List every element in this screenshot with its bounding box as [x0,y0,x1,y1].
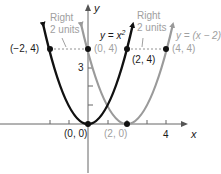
point-label-2-0: (2, 0) [104,129,127,139]
point-2-0 [124,121,130,127]
equation-base-text: y = x [100,30,121,41]
annotation-right-1-line2: 2 units [50,25,79,35]
point-label-0-4: (0, 4) [94,44,117,54]
point-4-4 [163,46,169,52]
y-tick-label-3: 3 [78,63,84,73]
point-label-4-4: (4, 4) [172,44,195,54]
equation-shifted: y = (x − 2)2 [176,28,221,41]
equation-base: y = x2 [100,28,125,41]
point-label-0-0: (0, 0) [64,129,87,139]
x-tick-label-4: 4 [163,130,169,140]
x-axis-label: x [191,129,197,139]
right-arrow-2 [142,38,143,47]
x-ticks [50,120,166,124]
equation-shifted-text: y = (x − 2) [176,30,221,41]
point-0-0 [85,121,91,127]
annotation-right-2-line1: Right [137,11,160,21]
annotation-right-2-line2: 2 units [137,23,166,33]
parabola-shifted [81,25,173,124]
annotation-right-1-line1: Right [50,13,73,23]
point-label-m2-4: (−2, 4) [10,44,39,54]
point-label-2-4: (2, 4) [132,55,155,65]
point-m2-4 [47,46,53,52]
point-0-4 [85,46,91,52]
point-2-4 [124,46,130,52]
parabola-shift-graph [0,0,221,174]
equation-base-exp: 2 [121,29,125,36]
y-axis-label: y [94,3,100,13]
right-arrow-1 [62,38,66,47]
